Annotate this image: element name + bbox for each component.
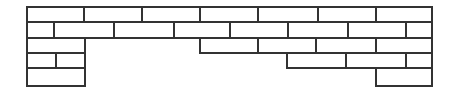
brick-r3c4 — [316, 38, 376, 53]
brick-r2c8 — [406, 22, 432, 38]
brick-r1c4 — [200, 7, 258, 22]
brick-r5c2 — [376, 68, 432, 86]
brick-r1c5 — [258, 7, 318, 22]
brick-r1c3 — [142, 7, 200, 22]
brick-r4c1 — [27, 53, 56, 68]
brick-r2c3 — [114, 22, 174, 38]
brick-r2c2 — [54, 22, 114, 38]
brick-r2c4 — [174, 22, 230, 38]
brick-row-1 — [27, 7, 432, 22]
brick-r1c7 — [376, 7, 432, 22]
brick-r1c6 — [318, 7, 376, 22]
brick-r4c2 — [56, 53, 85, 68]
brick-r4c3 — [287, 53, 346, 68]
brick-r2c1 — [27, 22, 54, 38]
brick-r3c5 — [376, 38, 432, 53]
brick-row-5 — [27, 68, 432, 86]
brick-r2c5 — [230, 22, 288, 38]
brick-wall-diagram — [0, 0, 456, 93]
brick-r2c7 — [348, 22, 406, 38]
brick-row-3 — [27, 38, 432, 53]
brick-r1c2 — [84, 7, 142, 22]
brick-rows-group — [27, 7, 432, 86]
brick-wall-canvas — [0, 0, 456, 93]
brick-row-4 — [27, 53, 432, 68]
brick-r5c1 — [27, 68, 85, 86]
brick-r1c1 — [27, 7, 84, 22]
brick-r3c2 — [200, 38, 258, 53]
brick-row-2 — [27, 22, 432, 38]
brick-r4c5 — [406, 53, 432, 68]
brick-r3c1 — [27, 38, 85, 53]
brick-r4c4 — [346, 53, 406, 68]
brick-r2c6 — [288, 22, 348, 38]
brick-r3c3 — [258, 38, 316, 53]
